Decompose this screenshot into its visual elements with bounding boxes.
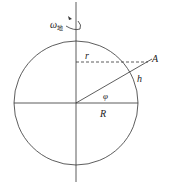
h-label: h xyxy=(137,73,142,84)
r-label: r xyxy=(85,50,89,61)
omega-label: ω地 xyxy=(50,19,63,31)
rotation-arrow-icon xyxy=(66,16,81,30)
earth-diagram: ω地 r A h φ R xyxy=(0,0,172,189)
phi-label: φ xyxy=(103,91,108,101)
point-a-label: A xyxy=(151,53,159,64)
r-capital-label: R xyxy=(99,108,106,119)
